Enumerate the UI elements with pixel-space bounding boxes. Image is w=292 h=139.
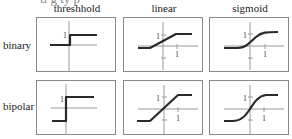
panel-bipolar-sigmoid: 1 1 xyxy=(209,80,289,135)
y-tick-label: 1 xyxy=(156,94,160,103)
y-tick-label: 1 xyxy=(156,32,160,41)
y-tick-label: 1 xyxy=(63,31,67,40)
y-tick-label: 1 xyxy=(243,94,247,103)
x-tick-label: 1 xyxy=(263,50,267,59)
bipolar-threshold-plot: 1 xyxy=(37,81,117,136)
x-tick-label: 1 xyxy=(175,50,179,59)
step-curve xyxy=(52,97,94,121)
binary-sigmoid-plot: 1 1 xyxy=(210,18,290,73)
row-label-bipolar: bipolar xyxy=(3,100,34,112)
binary-linear-plot: 1 1 xyxy=(124,18,204,73)
bipolar-linear-plot: 1 1 xyxy=(124,81,204,136)
column-header-sigmoid: sigmoid xyxy=(209,2,291,14)
sigmoid-curve xyxy=(224,95,278,121)
column-header-threshold: threshhold xyxy=(36,2,118,14)
x-tick-label: 1 xyxy=(262,114,266,123)
bipolar-sigmoid-plot: 1 1 xyxy=(210,81,290,136)
step-curve xyxy=(50,35,97,45)
y-tick-label: 1 xyxy=(60,95,64,104)
row-label-binary: binary xyxy=(3,39,31,51)
column-header-linear: linear xyxy=(123,2,205,14)
panel-bipolar-threshold: 1 xyxy=(36,80,116,135)
y-tick-label: 1 xyxy=(243,31,247,40)
panel-binary-linear: 1 1 xyxy=(123,17,203,72)
panel-binary-threshold: 1 xyxy=(36,17,116,72)
panel-binary-sigmoid: 1 1 xyxy=(209,17,289,72)
x-tick-label: 1 xyxy=(176,114,180,123)
binary-threshold-plot: 1 xyxy=(37,18,117,73)
panel-bipolar-linear: 1 1 xyxy=(123,80,203,135)
